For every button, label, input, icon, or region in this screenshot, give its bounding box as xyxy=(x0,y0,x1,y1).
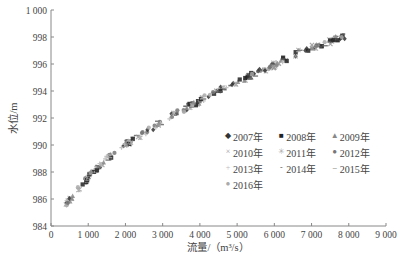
x-tick-label: 4 000 xyxy=(189,230,211,240)
y-tick-label: 988 xyxy=(33,168,48,178)
data-point xyxy=(331,38,335,42)
x-tick-label: 9 000 xyxy=(375,230,397,240)
legend-marker-icon: ● xyxy=(331,147,339,157)
axes: 01 0002 0003 0004 0005 0006 0007 0008 00… xyxy=(26,6,397,241)
legend-label: 2013年 xyxy=(233,161,263,176)
data-point xyxy=(202,93,206,97)
legend-label: 2010年 xyxy=(233,145,263,160)
legend-label: 2015年 xyxy=(340,161,370,176)
y-tick-label: 984 xyxy=(33,222,48,232)
y-tick-label: 994 xyxy=(33,87,48,97)
data-point xyxy=(314,44,318,48)
legend-marker-icon: × xyxy=(224,147,232,157)
legend-row: ●2016年 xyxy=(224,176,384,192)
legend-label: 2012年 xyxy=(340,145,370,160)
y-tick-label: 990 xyxy=(33,141,48,151)
legend-label: 2011年 xyxy=(286,145,316,160)
data-point xyxy=(147,125,151,129)
legend-row: ◆2007年■2008年▲2009年 xyxy=(224,128,384,144)
data-point xyxy=(238,77,242,81)
legend-marker-icon: ● xyxy=(224,179,232,189)
data-point xyxy=(112,151,116,155)
y-tick-label: 1 000 xyxy=(26,6,48,16)
x-tick-label: 6 000 xyxy=(264,230,286,240)
x-tick-label: 3 000 xyxy=(152,230,174,240)
legend-item: ✳2011年 xyxy=(277,145,330,160)
legend-marker-icon: - xyxy=(277,163,285,173)
x-tick-label: 0 xyxy=(49,230,54,240)
legend-row: ×2010年✳2011年●2012年 xyxy=(224,144,384,160)
data-point xyxy=(336,38,340,42)
data-point xyxy=(285,59,289,63)
data-point xyxy=(243,76,247,80)
y-tick-label: 998 xyxy=(33,33,48,43)
legend-marker-icon: ▲ xyxy=(331,131,339,141)
legend-item: –2015年 xyxy=(331,161,384,176)
data-point xyxy=(306,49,310,53)
data-point xyxy=(65,201,69,205)
legend-label: 2008年 xyxy=(286,129,316,144)
x-tick-label: 7 000 xyxy=(301,230,323,240)
x-tick-label: 2 000 xyxy=(115,230,137,240)
data-point xyxy=(175,108,179,112)
data-point xyxy=(211,90,215,94)
legend-item: ◆2007年 xyxy=(224,129,277,144)
y-tick-label: 996 xyxy=(33,60,48,70)
legend-label: 2007年 xyxy=(233,129,263,144)
data-point xyxy=(170,115,174,119)
legend-marker-icon: ✳ xyxy=(277,147,285,157)
data-point xyxy=(182,110,186,114)
data-point xyxy=(250,72,254,76)
y-tick-label: 992 xyxy=(33,114,48,124)
legend-item: ■2008年 xyxy=(277,129,330,144)
data-point xyxy=(131,137,135,141)
legend-label: 2016年 xyxy=(233,177,263,192)
legend-marker-icon: – xyxy=(331,163,339,173)
x-tick-label: 8 000 xyxy=(338,230,360,240)
legend-marker-icon: ■ xyxy=(277,131,285,141)
legend-item: ×2010年 xyxy=(224,145,277,160)
legend: ◆2007年■2008年▲2009年×2010年✳2011年●2012年+201… xyxy=(224,128,384,192)
data-point xyxy=(340,35,344,39)
legend-item: -2014年 xyxy=(277,161,330,176)
y-axis-title: 水位/m xyxy=(7,102,19,133)
data-point xyxy=(310,43,314,47)
legend-item: ▲2009年 xyxy=(331,129,384,144)
x-tick-label: 5 000 xyxy=(226,230,248,240)
data-point xyxy=(140,131,144,135)
data-point xyxy=(81,182,85,186)
data-point xyxy=(323,40,327,44)
legend-item: ●2012年 xyxy=(331,145,384,160)
legend-item: ●2016年 xyxy=(224,177,278,192)
legend-item: +2013年 xyxy=(224,161,277,176)
legend-row: +2013年-2014年–2015年 xyxy=(224,160,384,176)
legend-marker-icon: + xyxy=(224,163,232,173)
y-tick-label: 986 xyxy=(33,195,48,205)
data-point xyxy=(95,168,99,172)
x-axis-title: 流量/（m³/s） xyxy=(187,241,248,253)
legend-label: 2009年 xyxy=(340,129,370,144)
legend-label: 2014年 xyxy=(286,161,316,176)
legend-marker-icon: ◆ xyxy=(224,131,232,141)
x-tick-label: 1 000 xyxy=(78,230,100,240)
